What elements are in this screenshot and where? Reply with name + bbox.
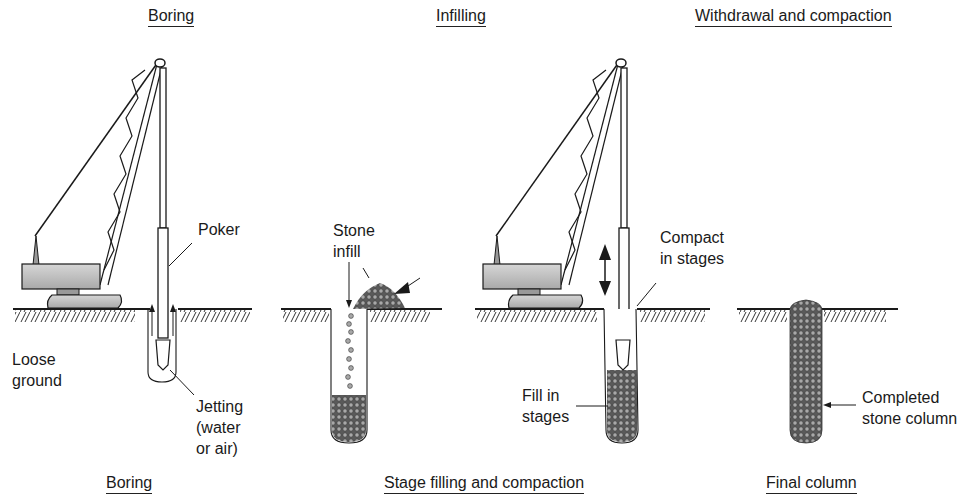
label-loose-ground-1: Loose xyxy=(12,350,56,369)
crane-body xyxy=(22,264,100,289)
crane-cable xyxy=(35,62,158,236)
label-fill-2: stages xyxy=(522,407,569,426)
caption-boring: Boring xyxy=(106,473,152,494)
crane-boom xyxy=(100,64,162,285)
label-stone-infill-1: Stone xyxy=(333,221,375,240)
label-poker: Poker xyxy=(198,220,240,239)
label-completed-2: stone column xyxy=(862,409,957,428)
heading-withdrawal-compaction: Withdrawal and compaction xyxy=(695,6,892,27)
stone-fill xyxy=(332,395,366,442)
push-arrow xyxy=(394,282,410,294)
stone-heap xyxy=(353,283,405,309)
poker-shaft xyxy=(160,68,166,228)
label-stone-infill-2: infill xyxy=(333,242,361,261)
caption-final-column: Final column xyxy=(766,473,857,494)
stone-fill xyxy=(607,370,637,442)
label-loose-ground-2: ground xyxy=(12,371,62,390)
label-compact-2: in stages xyxy=(660,249,724,268)
panel-infilling xyxy=(281,262,442,443)
label-fill-1: Fill in xyxy=(522,386,559,405)
up-arrow-icon xyxy=(599,244,611,260)
label-compact-1: Compact xyxy=(660,228,724,247)
ground-hatch xyxy=(15,310,135,322)
crane-tracks xyxy=(48,295,122,308)
heading-boring-top: Boring xyxy=(148,6,194,27)
label-jetting-2: (water xyxy=(196,418,240,437)
completed-column xyxy=(790,300,822,443)
heading-infilling: Infilling xyxy=(436,6,486,27)
down-arrow-icon xyxy=(599,281,611,296)
caption-stage-filling: Stage filling and compaction xyxy=(384,473,584,494)
label-jetting-3: or air) xyxy=(196,439,238,458)
diagram-canvas xyxy=(0,0,971,494)
label-jetting-1: Jetting xyxy=(196,397,243,416)
label-completed-1: Completed xyxy=(862,388,939,407)
